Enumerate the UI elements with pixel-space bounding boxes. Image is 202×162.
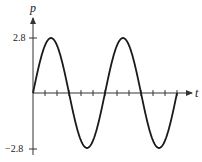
x-axis-label: t xyxy=(195,86,199,100)
y-tick-label-bottom: −2.8 xyxy=(5,143,23,154)
y-tick-label-top: 2.8 xyxy=(13,32,26,43)
chart: p t 2.8 −2.8 xyxy=(0,0,202,162)
y-axis-label: p xyxy=(29,1,36,15)
